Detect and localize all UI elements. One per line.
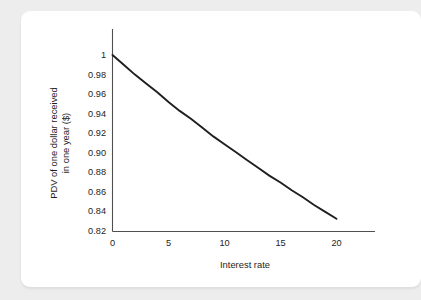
x-axis-title: Interest rate [220, 259, 270, 270]
y-tick-label: 0.98 [88, 70, 106, 80]
y-axis-title-line2: in one year ($) [60, 113, 71, 173]
y-tick-label: 0.82 [88, 226, 106, 236]
y-tick-label: 1 [101, 50, 106, 60]
x-tick-labels: 0 5 10 15 20 [110, 238, 342, 248]
y-tick-label: 0.88 [88, 167, 106, 177]
y-axis-title: PDV of one dollar received in one year (… [48, 87, 71, 199]
x-tick-label: 0 [110, 238, 115, 248]
x-tick-label: 15 [275, 238, 285, 248]
y-tick-label: 0.92 [88, 128, 106, 138]
y-tick-label: 0.94 [88, 109, 106, 119]
x-tick-label: 20 [331, 238, 341, 248]
y-tick-label: 0.96 [88, 89, 106, 99]
pdv-curve [113, 55, 337, 219]
x-tick-label: 5 [166, 238, 171, 248]
y-tick-label: 0.90 [88, 148, 106, 158]
y-tick-labels: 1 0.98 0.96 0.94 0.92 0.90 0.88 0.86 0.8… [88, 50, 106, 236]
x-tick-label: 10 [219, 238, 229, 248]
y-tick-label: 0.86 [88, 187, 106, 197]
y-axis-title-line1: PDV of one dollar received [48, 87, 59, 199]
y-tick-label: 0.84 [88, 206, 106, 216]
